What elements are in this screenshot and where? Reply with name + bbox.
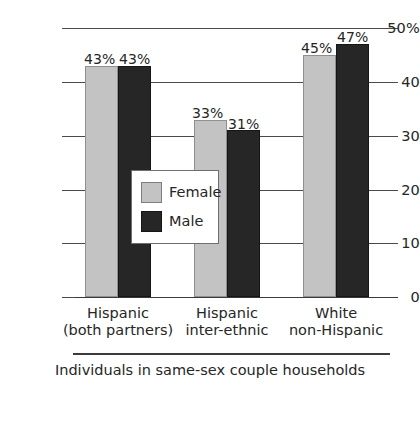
y-tick-label-40: 40 <box>362 75 420 90</box>
y-tick-label-20: 20 <box>362 183 420 198</box>
y-tick-label-10: 10 <box>362 236 420 251</box>
tick-stub-0 <box>62 297 75 298</box>
bar-female-hispanic-both-partners <box>85 66 118 297</box>
tick-stub-50 <box>62 28 75 29</box>
bar-female-white-non-hispanic <box>303 55 336 297</box>
legend-swatch-female-icon <box>141 182 162 203</box>
bar-value-male-hispanic-both-partners: 43% <box>119 52 150 66</box>
bar-male-white-non-hispanic <box>336 44 369 297</box>
tick-stub-40 <box>62 82 75 83</box>
chart-caption: Individuals in same-sex couple household… <box>0 362 420 379</box>
y-tick-label-0: 0 <box>362 290 420 305</box>
chart-legend: Female Male <box>131 170 219 244</box>
caption-divider <box>73 353 390 355</box>
x-category-label-white-non-hispanic: White non-Hispanic <box>266 305 406 339</box>
legend-item-female: Female <box>141 178 218 207</box>
legend-swatch-male-icon <box>141 211 162 232</box>
legend-label-male: Male <box>169 214 203 229</box>
bar-value-female-hispanic-inter-ethnic: 33% <box>192 106 223 120</box>
legend-item-male: Male <box>141 207 218 236</box>
bar-value-female-hispanic-both-partners: 43% <box>84 52 115 66</box>
x-category-line-2: non-Hispanic <box>266 322 406 339</box>
tick-stub-30 <box>62 136 75 137</box>
tick-stub-10 <box>62 243 75 244</box>
bar-value-male-hispanic-inter-ethnic: 31% <box>228 117 259 131</box>
y-tick-label-30: 30 <box>362 129 420 144</box>
bar-value-female-white-non-hispanic: 45% <box>301 41 332 55</box>
x-category-line-1: White <box>266 305 406 322</box>
bar-chart: 50% 40 30 20 10 0 43% 43% 33% 31% 45% 47… <box>0 0 420 427</box>
bar-male-hispanic-inter-ethnic <box>227 130 260 297</box>
bar-value-male-white-non-hispanic: 47% <box>337 30 368 44</box>
axis-baseline <box>73 297 398 298</box>
tick-stub-20 <box>62 190 75 191</box>
y-tick-label-50: 50% <box>362 21 420 36</box>
legend-label-female: Female <box>169 185 221 200</box>
